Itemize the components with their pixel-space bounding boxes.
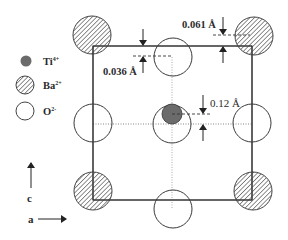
ba-atom-top-left bbox=[73, 16, 111, 54]
legend-ti-label: Ti4+ bbox=[43, 56, 60, 67]
axis-indicators: c a bbox=[27, 163, 66, 225]
ba-atom-bottom-right bbox=[234, 172, 272, 210]
label-012: 0.12 Å bbox=[210, 97, 240, 109]
legend: Ti4+ Ba2+ O2- bbox=[16, 56, 62, 121]
center-guides bbox=[93, 57, 252, 209]
displacement-0036: 0.036 Å bbox=[103, 29, 172, 77]
legend-o-icon bbox=[16, 102, 34, 120]
legend-ba-icon bbox=[16, 76, 34, 94]
label-0036: 0.036 Å bbox=[103, 66, 137, 77]
o-atom-bottom bbox=[154, 190, 192, 228]
legend-ba-label: Ba2+ bbox=[43, 80, 62, 91]
a-axis-label: a bbox=[28, 213, 34, 225]
displacement-012: 0.12 Å bbox=[172, 95, 240, 141]
o-atom-top bbox=[154, 38, 192, 76]
legend-ti-icon bbox=[21, 56, 32, 67]
label-0061: 0.061 Å bbox=[182, 19, 216, 30]
legend-o-label: O2- bbox=[43, 106, 56, 117]
ba-atom-top-right bbox=[235, 17, 273, 55]
unit-cell-diagram: 0.061 Å 0.036 Å 0.12 Å Ti4+ Ba2+ O2- c a bbox=[0, 0, 288, 240]
c-axis-label: c bbox=[27, 192, 32, 204]
